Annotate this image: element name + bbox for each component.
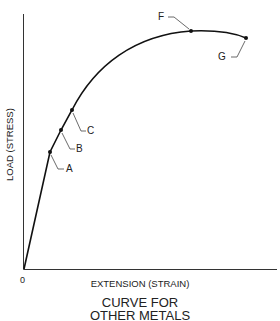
leader-g [231, 41, 245, 57]
chart-title-line2: OTHER METALS [0, 309, 280, 321]
stress-strain-diagram [0, 0, 280, 321]
leader-b [62, 133, 75, 149]
point-f-marker [189, 29, 193, 33]
leader-c [73, 113, 86, 131]
x-axis-label: EXTENSION (STRAIN) [0, 278, 280, 289]
point-a-marker [48, 150, 52, 154]
y-axis-label: LOAD (STRESS) [4, 108, 15, 181]
leader-a [51, 155, 64, 169]
point-c-label: C [87, 126, 94, 136]
point-a-label: A [66, 164, 73, 174]
stress-strain-curve [24, 31, 246, 269]
point-b-label: B [76, 144, 83, 154]
point-g-label: G [218, 52, 226, 62]
point-f-label: F [158, 12, 164, 22]
point-g-marker [244, 36, 248, 40]
leader-f [168, 17, 189, 29]
point-c-marker [70, 108, 74, 112]
point-b-marker [59, 128, 63, 132]
